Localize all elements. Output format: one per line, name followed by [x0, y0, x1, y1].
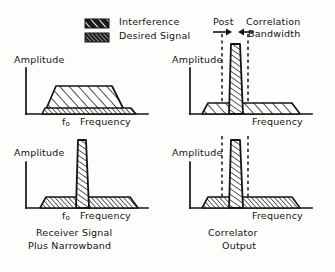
annotation-bandwidth-label: Bandwidth — [248, 29, 300, 39]
desired-signal-spike-top-right — [229, 44, 243, 114]
panel-top-left — [26, 68, 148, 114]
panel-top-right — [190, 34, 312, 114]
annotation-correlation-label: Correlation — [246, 17, 301, 27]
legend-label-interference: Interference — [119, 17, 180, 27]
x-tick-label-bottom-left: fo — [62, 211, 70, 223]
x-axis-label-bottom-right: Frequency — [252, 211, 303, 221]
legend-label-desired-signal: Desired Signal — [119, 31, 190, 41]
desired-signal-low-trapezoid-bottom-right — [202, 197, 300, 208]
desired-signal-baseband-top-left — [42, 108, 136, 114]
interference-spike-bottom-left — [76, 140, 89, 208]
y-axis-label-bottom-right: Amplitude — [172, 148, 222, 158]
caption-bottom-left-line2: Plus Narrowband — [28, 241, 111, 251]
interference-low-trapezoid-top-right — [202, 103, 300, 114]
x-axis-label-top-left: Frequency — [80, 117, 131, 127]
x-tick-label-top-left: fo — [62, 117, 70, 129]
caption-bottom-right-line2: Output — [222, 241, 256, 251]
x-axis-label-top-right: Frequency — [252, 117, 303, 127]
y-axis-label-top-left: Amplitude — [14, 55, 64, 65]
caption-bottom-left-line1: Receiver Signal — [36, 228, 112, 238]
figure-root: Interference Desired Signal Post Correla… — [0, 0, 335, 272]
legend-swatch-interference — [85, 19, 109, 28]
legend-swatch-desired-signal — [85, 33, 109, 42]
caption-bottom-right-line1: Correlator — [208, 228, 258, 238]
y-axis-label-bottom-left: Amplitude — [14, 148, 64, 158]
y-axis-label-top-right: Amplitude — [172, 55, 222, 65]
interference-spike-bottom-right — [229, 140, 243, 208]
x-axis-label-bottom-left: Frequency — [80, 211, 131, 221]
annotation-post-label: Post — [213, 17, 234, 27]
